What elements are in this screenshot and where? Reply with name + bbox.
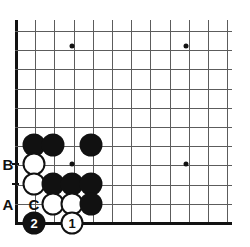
- grid-line-horizontal: [15, 89, 232, 90]
- coordinate-label-b: B: [3, 156, 14, 173]
- margin-tick-3: [15, 155, 17, 191]
- star-point-3: [184, 162, 189, 167]
- grid-line-horizontal: [15, 69, 232, 70]
- stone-black-3[interactable]: [80, 134, 103, 157]
- stone-white-move-1[interactable]: 1: [61, 212, 84, 235]
- go-board[interactable]: BA21C: [0, 0, 250, 247]
- star-point-2: [184, 44, 189, 49]
- stone-black-move-2[interactable]: 2: [23, 212, 46, 235]
- board-edge-bottom: [15, 222, 232, 225]
- stone-black-2[interactable]: [42, 134, 65, 157]
- grid-line-horizontal: [15, 31, 232, 32]
- star-point-1: [70, 44, 75, 49]
- grid-line-horizontal: [15, 108, 232, 109]
- grid-line-horizontal: [15, 127, 232, 128]
- grid-line-horizontal: [15, 50, 232, 51]
- board-mark-c: C: [29, 196, 40, 213]
- stone-move-number: 2: [23, 212, 46, 235]
- coordinate-label-a: A: [3, 196, 14, 213]
- stone-black-11[interactable]: [80, 193, 103, 216]
- star-point-4: [70, 162, 75, 167]
- stone-move-number: 1: [63, 214, 82, 233]
- grid-line-horizontal: [15, 165, 232, 166]
